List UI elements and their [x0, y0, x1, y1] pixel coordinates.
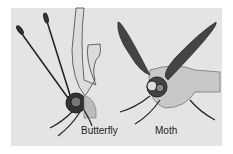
butterfly-eye: [71, 97, 81, 107]
butterfly-antenna-club-left: [15, 25, 24, 35]
butterfly-drawing: [15, 8, 100, 136]
moth-leg: [190, 100, 215, 120]
moth-antenna-left: [118, 22, 150, 75]
moth-drawing: [118, 22, 220, 124]
butterfly-wing: [72, 8, 101, 96]
butterfly-body: [84, 95, 96, 118]
butterfly-label: Butterfly: [81, 125, 118, 136]
butterfly-antenna-club-right: [43, 13, 49, 24]
moth-eye: [156, 84, 164, 92]
moth-eye: [147, 81, 157, 91]
moth-label: Moth: [155, 125, 177, 136]
moth-leg: [120, 96, 150, 112]
